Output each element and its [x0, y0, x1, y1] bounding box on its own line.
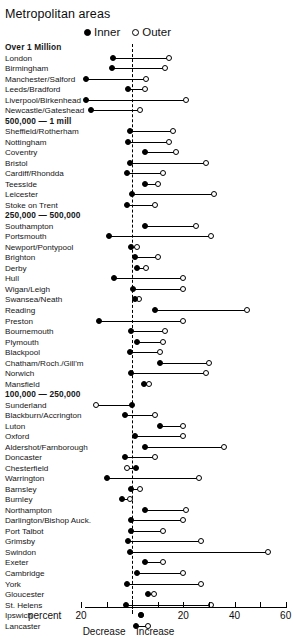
row-label: Gloucester — [5, 589, 44, 600]
connector-line — [131, 531, 163, 532]
data-row: Doncaster — [0, 452, 293, 463]
data-row: Bournemouth — [0, 326, 293, 337]
connector-line — [130, 552, 268, 553]
outer-point-marker — [157, 349, 163, 355]
data-row: Norwich — [0, 368, 293, 379]
inner-point-marker — [129, 402, 135, 408]
row-label: Sheffield/Rotherham — [5, 126, 79, 137]
connector-line — [127, 584, 201, 585]
row-label: Burnley — [5, 494, 32, 505]
data-row: Preston — [0, 316, 293, 327]
outer-point-marker — [203, 160, 209, 166]
data-row: Cardiff/Rhondda — [0, 168, 293, 179]
outer-point-marker — [180, 275, 186, 281]
outer-point-marker — [180, 423, 186, 429]
outer-point-marker — [166, 139, 172, 145]
inner-point-marker — [106, 233, 112, 239]
connector-line — [137, 573, 183, 574]
connector-line — [127, 205, 155, 206]
inner-point-marker — [157, 423, 163, 429]
connector-line — [128, 142, 169, 143]
row-label: Mansfield — [5, 379, 40, 390]
inner-point-marker — [124, 581, 130, 587]
data-row: Southampton — [0, 221, 293, 232]
outer-point-marker — [137, 486, 143, 492]
row-label: Port Talbot — [5, 526, 44, 537]
row-label: Cardiff/Rhondda — [5, 168, 64, 179]
outer-point-marker — [155, 181, 161, 187]
inner-point-marker — [142, 181, 148, 187]
outer-point-marker — [151, 591, 157, 597]
row-label: Aldershot/Farnborough — [5, 442, 88, 453]
row-label: Reading — [5, 305, 35, 316]
outer-point-marker — [183, 97, 189, 103]
row-label: Birmingham — [5, 63, 48, 74]
row-label: Swindon — [5, 547, 36, 558]
row-label: Wigan/Leigh — [5, 284, 50, 295]
outer-point-marker — [124, 465, 130, 471]
inner-point-marker — [83, 97, 89, 103]
axis-unit-label: percent — [28, 610, 61, 621]
data-row: Northampton — [0, 505, 293, 516]
connector-line — [145, 447, 224, 448]
outer-point-marker — [221, 444, 227, 450]
outer-point-marker — [160, 559, 166, 565]
outer-point-marker — [198, 538, 204, 544]
connector-line — [96, 405, 132, 406]
group-heading-row: Over 1 Million — [0, 42, 293, 53]
data-row: Burnley — [0, 494, 293, 505]
outer-point-marker — [208, 233, 214, 239]
outer-point-marker — [183, 507, 189, 513]
row-label: Norwich — [5, 368, 34, 379]
data-row: Chatham/Roch./Gill'm — [0, 358, 293, 369]
group-label: 500,000 — 1 mill — [5, 116, 72, 127]
chart-legend: Inner Outer — [84, 26, 171, 38]
inner-point-marker — [128, 517, 134, 523]
row-label: Derby — [5, 263, 27, 274]
row-label: Doncaster — [5, 452, 42, 463]
inner-point-marker — [128, 528, 134, 534]
axis-tick — [107, 602, 108, 608]
inner-point-marker — [125, 139, 131, 145]
outer-point-marker — [198, 581, 204, 587]
outer-point-marker — [206, 360, 212, 366]
data-row: Darlington/Bishop Auck. — [0, 515, 293, 526]
legend-item-inner: Inner — [84, 26, 120, 38]
connector-line — [145, 510, 186, 511]
inner-point-marker — [145, 591, 151, 597]
outer-point-marker — [180, 517, 186, 523]
connector-line — [155, 310, 247, 311]
inner-point-marker — [125, 538, 131, 544]
data-row: Leeds/Bradford — [0, 84, 293, 95]
data-row: Coventry — [0, 147, 293, 158]
connector-line — [86, 100, 186, 101]
row-label: Chatham/Roch./Gill'm — [5, 358, 83, 369]
inner-point-marker — [132, 433, 138, 439]
inner-point-marker — [127, 128, 133, 134]
outer-point-marker — [93, 402, 99, 408]
row-label: Leicester — [5, 189, 38, 200]
inner-point-marker — [127, 549, 133, 555]
row-label: Barnsley — [5, 484, 37, 495]
inner-point-marker — [133, 465, 139, 471]
outer-point-marker — [180, 570, 186, 576]
inner-point-marker — [104, 475, 110, 481]
inner-point-marker — [142, 559, 148, 565]
outer-point-marker — [180, 318, 186, 324]
inner-point-marker — [134, 570, 140, 576]
legend-item-outer: Outer — [132, 26, 171, 38]
x-axis: percent 20204060DecreaseIncrease — [0, 600, 293, 642]
data-row: Cambridge — [0, 568, 293, 579]
row-label: Bristol — [5, 158, 28, 169]
inner-point-marker — [141, 381, 147, 387]
outer-point-marker — [180, 433, 186, 439]
connector-line — [128, 541, 201, 542]
inner-point-marker — [134, 265, 140, 271]
inner-point-marker — [128, 328, 134, 334]
hollow-circle-icon — [132, 29, 139, 36]
data-row: Wigan/Leigh — [0, 284, 293, 295]
connector-line — [99, 321, 183, 322]
inner-point-marker — [124, 170, 130, 176]
data-row: Port Talbot — [0, 526, 293, 537]
row-label: Nottingham — [5, 137, 46, 148]
